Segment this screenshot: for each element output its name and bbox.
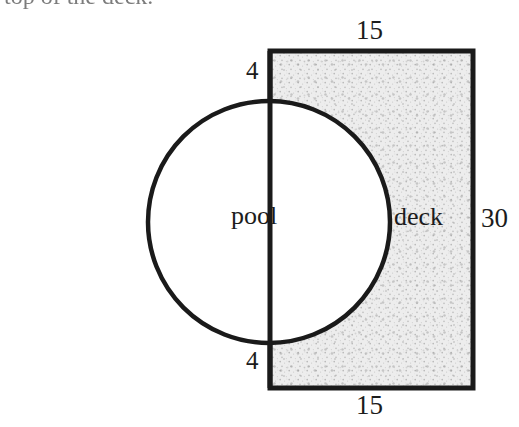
dimension-label-top-width: 15 — [356, 17, 383, 44]
pool-deck-figure: top of the deck. — [0, 0, 519, 427]
region-label-pool: pool — [231, 203, 277, 229]
dimension-label-top-gap: 4 — [246, 58, 259, 83]
dimension-label-bottom-gap: 4 — [246, 348, 259, 373]
dimension-label-right-height: 30 — [481, 205, 508, 232]
region-label-deck: deck — [394, 204, 443, 230]
dimension-label-bottom-width: 15 — [356, 392, 383, 419]
